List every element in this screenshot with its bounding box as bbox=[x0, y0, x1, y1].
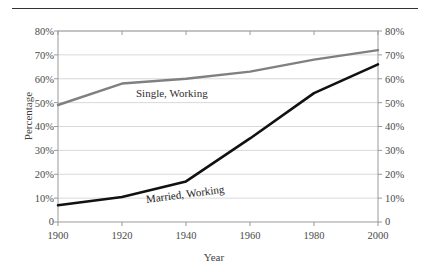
y-axis-left-tick-label: 70% bbox=[14, 51, 54, 62]
y-axis-right-tick-label: 20% bbox=[385, 170, 425, 181]
y-axis-right-tick-label: 60% bbox=[385, 75, 425, 86]
y-axis-right-tick-label: 80% bbox=[385, 27, 425, 38]
y-axis-right-tick-label: 30% bbox=[385, 146, 425, 157]
y-axis-left-tick-label: 20% bbox=[14, 170, 54, 181]
x-axis-tick-label: 1960 bbox=[230, 231, 270, 242]
x-axis-tick-label: 1980 bbox=[294, 231, 334, 242]
y-axis-left-tick-label: 50% bbox=[14, 99, 54, 110]
series-label-single-working: Single, Working bbox=[136, 88, 208, 99]
y-axis-right-tick-label: 50% bbox=[385, 99, 425, 110]
y-axis-right-tick-label: 0 bbox=[385, 217, 425, 228]
y-axis-left-tick-label: 40% bbox=[14, 122, 54, 133]
x-axis-tick-label: 2000 bbox=[358, 231, 398, 242]
y-axis-right-tick-label: 70% bbox=[385, 51, 425, 62]
series-line-single-working bbox=[58, 50, 378, 105]
y-axis-left-tick-label: 10% bbox=[14, 194, 54, 205]
x-axis-title: Year bbox=[0, 251, 428, 263]
y-axis-left-tick-label: 80% bbox=[14, 27, 54, 38]
y-axis-left-tick-label: 60% bbox=[14, 75, 54, 86]
y-axis-right-tick-label: 40% bbox=[385, 122, 425, 133]
y-axis-left-tick-label: 0 bbox=[14, 217, 54, 228]
y-axis-right-tick-label: 10% bbox=[385, 194, 425, 205]
x-axis-tick-label: 1940 bbox=[166, 231, 206, 242]
y-axis-left-tick-label: 30% bbox=[14, 146, 54, 157]
x-axis-tick-label: 1920 bbox=[102, 231, 142, 242]
y-axis-title: Percentage bbox=[22, 66, 34, 166]
chart-figure: 80% 70% 60% 50% 40% 30% 20% 10% 0 80% 70… bbox=[0, 0, 428, 272]
x-axis-tick-label: 1900 bbox=[38, 231, 78, 242]
